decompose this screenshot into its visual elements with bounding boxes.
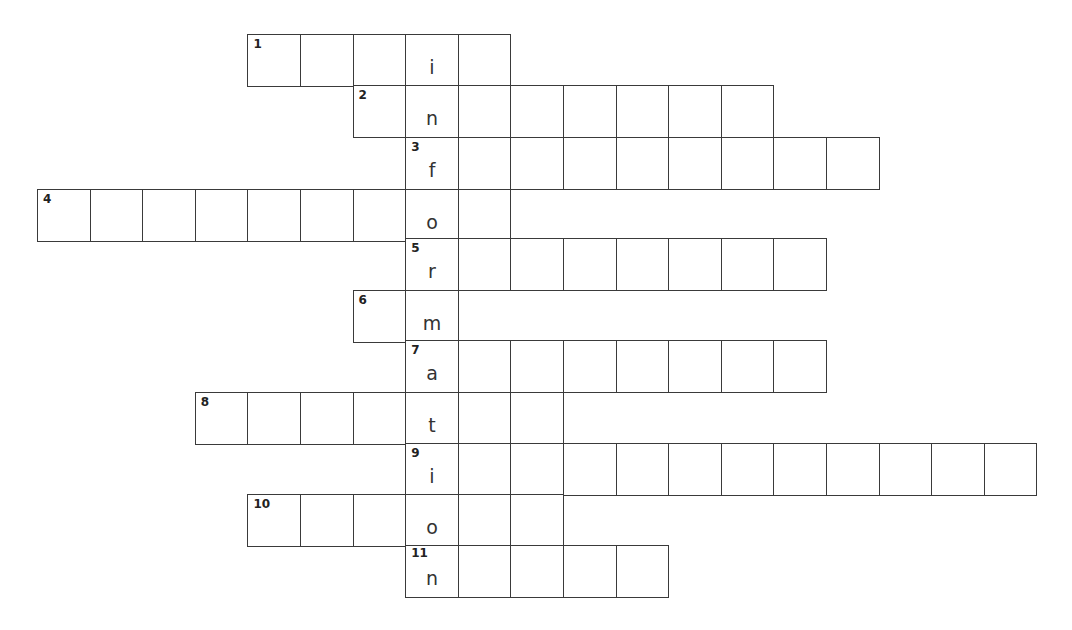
crossword-cell[interactable] — [510, 340, 564, 393]
crossword-cell[interactable] — [721, 85, 775, 138]
crossword-cell[interactable] — [458, 189, 512, 242]
crossword-cell[interactable] — [353, 34, 407, 87]
crossword-cell[interactable]: 4 — [37, 189, 91, 242]
crossword-cell[interactable] — [458, 494, 512, 547]
crossword-cell[interactable]: 6 — [353, 290, 407, 343]
crossword-cell[interactable] — [458, 34, 512, 87]
clue-number: 4 — [43, 192, 51, 206]
crossword-cell[interactable] — [300, 34, 354, 87]
crossword-cell[interactable]: n — [405, 85, 459, 138]
crossword-cell[interactable] — [458, 392, 512, 445]
clue-number: 8 — [201, 395, 209, 409]
crossword-cell[interactable] — [510, 545, 564, 598]
crossword-cell[interactable] — [142, 189, 196, 242]
crossword-cell[interactable] — [616, 340, 670, 393]
crossword-cell[interactable] — [773, 443, 827, 496]
crossword-cell[interactable]: i — [405, 34, 459, 87]
clue-number: 1 — [253, 37, 261, 51]
crossword-cell[interactable] — [668, 137, 722, 190]
crossword-cell[interactable] — [826, 443, 880, 496]
clue-number: 9 — [411, 446, 419, 460]
crossword-cell[interactable] — [721, 340, 775, 393]
crossword-cell[interactable] — [826, 137, 880, 190]
crossword-cell[interactable] — [353, 189, 407, 242]
crossword-cell[interactable] — [300, 392, 354, 445]
crossword-cell[interactable] — [353, 494, 407, 547]
crossword-cell[interactable] — [90, 189, 144, 242]
crossword-cell[interactable] — [458, 340, 512, 393]
crossword-cell[interactable] — [616, 545, 670, 598]
crossword-grid: 1i2n3f4o5r6m7a8t9i10o11n — [0, 0, 1072, 630]
key-letter: i — [406, 465, 458, 487]
crossword-cell[interactable] — [353, 392, 407, 445]
clue-number: 10 — [253, 497, 270, 511]
crossword-cell[interactable]: 5r — [405, 238, 459, 291]
crossword-cell[interactable]: 8 — [195, 392, 249, 445]
key-letter: n — [406, 107, 458, 129]
crossword-cell[interactable] — [247, 392, 301, 445]
crossword-cell[interactable] — [510, 443, 564, 496]
crossword-cell[interactable] — [668, 85, 722, 138]
crossword-cell[interactable] — [563, 545, 617, 598]
key-letter: o — [406, 211, 458, 233]
crossword-cell[interactable] — [510, 392, 564, 445]
crossword-cell[interactable] — [563, 238, 617, 291]
crossword-cell[interactable]: t — [405, 392, 459, 445]
crossword-cell[interactable] — [773, 238, 827, 291]
crossword-cell[interactable]: 10 — [247, 494, 301, 547]
crossword-cell[interactable]: 9i — [405, 443, 459, 496]
crossword-cell[interactable] — [458, 85, 512, 138]
crossword-cell[interactable] — [458, 238, 512, 291]
crossword-cell[interactable] — [563, 443, 617, 496]
clue-number: 11 — [411, 546, 428, 560]
crossword-cell[interactable]: 1 — [247, 34, 301, 87]
crossword-cell[interactable] — [510, 85, 564, 138]
crossword-cell[interactable] — [616, 85, 670, 138]
crossword-cell[interactable] — [247, 189, 301, 242]
crossword-cell[interactable] — [510, 494, 564, 547]
crossword-cell[interactable] — [458, 545, 512, 598]
crossword-cell[interactable] — [300, 189, 354, 242]
crossword-cell[interactable] — [616, 137, 670, 190]
clue-number: 7 — [411, 343, 419, 357]
clue-number: 2 — [359, 88, 367, 102]
crossword-cell[interactable]: 3f — [405, 137, 459, 190]
crossword-cell[interactable] — [563, 85, 617, 138]
key-letter: a — [406, 362, 458, 384]
key-letter: o — [406, 516, 458, 538]
crossword-cell[interactable] — [563, 340, 617, 393]
crossword-cell[interactable] — [458, 443, 512, 496]
clue-number: 6 — [359, 293, 367, 307]
crossword-cell[interactable]: 7a — [405, 340, 459, 393]
crossword-cell[interactable] — [721, 238, 775, 291]
crossword-cell[interactable] — [721, 137, 775, 190]
crossword-cell[interactable] — [668, 340, 722, 393]
crossword-cell[interactable] — [931, 443, 985, 496]
key-letter: r — [406, 260, 458, 282]
crossword-cell[interactable] — [616, 443, 670, 496]
crossword-cell[interactable] — [616, 238, 670, 291]
crossword-cell[interactable] — [721, 443, 775, 496]
crossword-cell[interactable] — [773, 137, 827, 190]
crossword-cell[interactable]: m — [405, 290, 459, 343]
crossword-cell[interactable] — [773, 340, 827, 393]
crossword-cell[interactable] — [668, 443, 722, 496]
crossword-cell[interactable]: 11n — [405, 545, 459, 598]
crossword-cell[interactable] — [984, 443, 1038, 496]
clue-number: 3 — [411, 140, 419, 154]
crossword-cell[interactable] — [458, 137, 512, 190]
crossword-cell[interactable] — [879, 443, 933, 496]
key-letter: m — [406, 312, 458, 334]
crossword-cell[interactable] — [668, 238, 722, 291]
crossword-cell[interactable]: o — [405, 494, 459, 547]
crossword-cell[interactable] — [563, 137, 617, 190]
clue-number: 5 — [411, 241, 419, 255]
key-letter: f — [406, 159, 458, 181]
crossword-cell[interactable] — [195, 189, 249, 242]
crossword-cell[interactable] — [300, 494, 354, 547]
crossword-cell[interactable]: 2 — [353, 85, 407, 138]
key-letter: i — [406, 56, 458, 78]
crossword-cell[interactable]: o — [405, 189, 459, 242]
crossword-cell[interactable] — [510, 137, 564, 190]
crossword-cell[interactable] — [510, 238, 564, 291]
